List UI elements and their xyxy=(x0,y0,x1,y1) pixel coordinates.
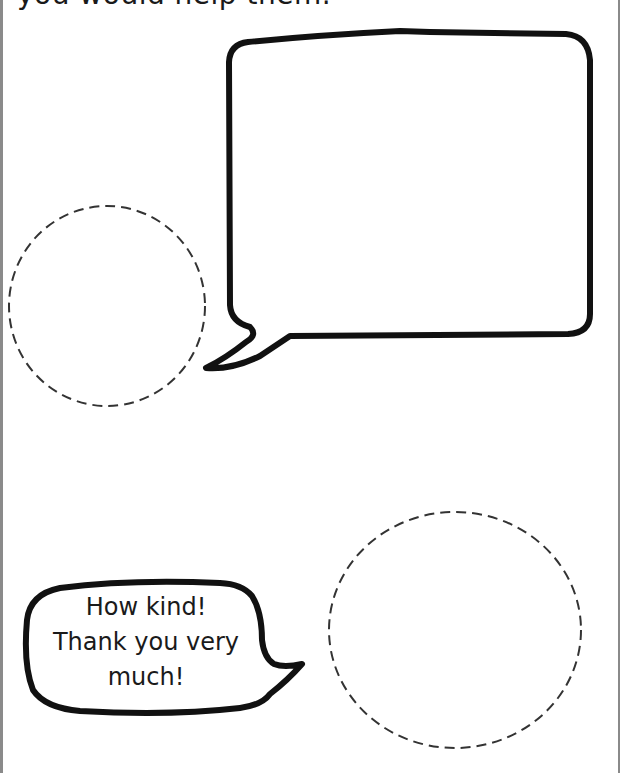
speech-bubble-top[interactable] xyxy=(206,31,590,368)
reply-line-2: Thank you very xyxy=(36,625,256,660)
reply-line-3: much! xyxy=(36,660,256,695)
speech-bubble-bottom-text: How kind! Thank you very much! xyxy=(36,590,256,695)
answer-circle-top-left[interactable] xyxy=(9,206,205,406)
worksheet-page: you would help them. How kind! Thank you… xyxy=(0,0,621,773)
reply-line-1: How kind! xyxy=(36,590,256,625)
answer-circle-bottom-right[interactable] xyxy=(329,512,581,748)
